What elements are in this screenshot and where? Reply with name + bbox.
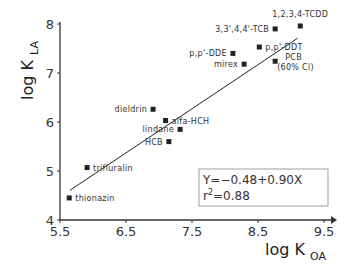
data-point: 1,2,3,4-TCDD bbox=[272, 10, 328, 29]
square-marker-icon bbox=[273, 26, 278, 31]
square-marker-icon bbox=[257, 45, 262, 50]
square-marker-icon bbox=[230, 51, 235, 56]
data-point: trifluralin bbox=[85, 164, 133, 173]
square-marker-icon bbox=[67, 195, 72, 200]
point-label: lindane bbox=[143, 125, 175, 134]
data-point: alfa-HCH bbox=[163, 117, 209, 126]
x-axis-title-sub: OA bbox=[310, 250, 326, 263]
point-label: mirex bbox=[214, 60, 238, 69]
square-marker-icon bbox=[298, 23, 303, 28]
data-point: HCB bbox=[145, 138, 172, 147]
data-point: p,p'-DDT bbox=[257, 43, 303, 52]
y-tick-label: 4 bbox=[46, 213, 54, 228]
y-tick-label: 5 bbox=[46, 164, 54, 179]
point-label: 3,3',4,4'-TCB bbox=[215, 25, 269, 34]
y-ticks: 45678 bbox=[46, 17, 60, 228]
point-label: thionazin bbox=[75, 194, 115, 203]
x-tick-label: 6.5 bbox=[116, 224, 137, 239]
y-axis-title-sub: LA bbox=[28, 41, 41, 55]
equation-box: Y=−0.48+0.90X r2=0.88 bbox=[199, 169, 328, 206]
point-label: PCB bbox=[285, 53, 302, 62]
point-label: alfa-HCH bbox=[172, 117, 210, 126]
equation-text: Y=−0.48+0.90X bbox=[202, 173, 302, 187]
scatter-chart: 5.56.57.58.59.5 45678 thionazintriflural… bbox=[0, 0, 352, 272]
point-label: p,p'-DDT bbox=[265, 43, 302, 52]
data-point: mirex bbox=[214, 60, 247, 69]
point-label: HCB bbox=[145, 138, 163, 147]
point-label: dieldrin bbox=[115, 105, 148, 114]
x-axis-title-main: log K bbox=[265, 240, 305, 259]
y-axis-title: log K LA bbox=[18, 41, 41, 100]
square-marker-icon bbox=[163, 118, 168, 123]
x-axis-arrow-icon bbox=[331, 216, 337, 224]
data-point: lindane bbox=[143, 125, 183, 134]
point-label: trifluralin bbox=[93, 164, 133, 173]
point-label: (60% Cl) bbox=[277, 63, 314, 72]
y-tick-label: 7 bbox=[46, 66, 54, 81]
point-label: 1,2,3,4-TCDD bbox=[272, 10, 328, 19]
y-tick-label: 8 bbox=[46, 17, 54, 32]
y-tick-label: 6 bbox=[46, 115, 54, 130]
x-ticks: 5.56.57.58.59.5 bbox=[50, 220, 335, 239]
data-point: dieldrin bbox=[115, 105, 156, 114]
square-marker-icon bbox=[178, 127, 183, 132]
data-point: 3,3',4,4'-TCB bbox=[215, 25, 277, 34]
data-point: PCB(60% Cl) bbox=[273, 53, 314, 72]
square-marker-icon bbox=[151, 107, 156, 112]
square-marker-icon bbox=[166, 139, 171, 144]
x-tick-label: 7.5 bbox=[182, 224, 203, 239]
data-point: p,p'-DDE bbox=[189, 49, 235, 58]
y-axis-title-main: log K bbox=[18, 60, 37, 100]
point-label: p,p'-DDE bbox=[189, 49, 227, 58]
square-marker-icon bbox=[85, 165, 90, 170]
x-tick-label: 8.5 bbox=[248, 224, 269, 239]
square-marker-icon bbox=[242, 62, 247, 67]
x-tick-label: 9.5 bbox=[314, 224, 335, 239]
x-axis-title: log K OA bbox=[265, 240, 326, 263]
data-point: thionazin bbox=[67, 194, 115, 203]
